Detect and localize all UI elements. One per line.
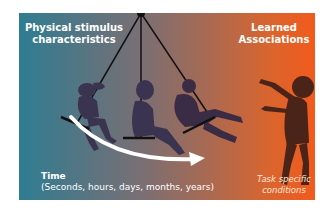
diagram-panel: Physical stimulus characteristics Learne… — [19, 13, 315, 200]
child-on-swing-middle — [123, 13, 185, 155]
time-label: Time (Seconds, hours, days, months, year… — [41, 171, 214, 193]
time-subtitle: (Seconds, hours, days, months, years) — [41, 182, 214, 193]
time-title: Time — [41, 171, 214, 182]
child-on-swing-forward — [141, 13, 243, 143]
person-reaching — [259, 76, 314, 185]
physical-stimulus-heading: Physical stimulus characteristics — [19, 22, 129, 46]
learned-associations-heading: Learned Associations — [229, 22, 315, 46]
task-specific-conditions-label: Task specific conditions — [249, 174, 315, 196]
arrow-head-icon — [189, 152, 205, 166]
